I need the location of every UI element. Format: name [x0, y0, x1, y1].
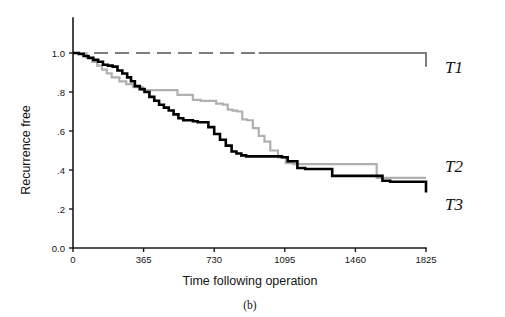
y-tick-label: .4: [57, 165, 65, 176]
y-axis-title: Recurrence free: [19, 105, 33, 195]
y-tick-label: .2: [57, 204, 65, 215]
x-tick-label: 1095: [274, 254, 295, 265]
kaplan-meier-chart: 0.0.2.4.6.81.0 0365730109514601825 T1T2T…: [0, 0, 505, 317]
series-label-t1: T1: [445, 58, 463, 77]
x-tick-label: 1460: [345, 254, 366, 265]
x-tick-label: 365: [136, 254, 152, 265]
figure-container: 0.0.2.4.6.81.0 0365730109514601825 T1T2T…: [0, 0, 505, 317]
y-axis-ticks: 0.0.2.4.6.81.0: [52, 48, 73, 254]
curve-t3: [73, 53, 426, 192]
x-tick-label: 730: [206, 254, 222, 265]
y-tick-label: 1.0: [52, 48, 65, 59]
curve-t2: [73, 53, 426, 178]
curve-t1: [259, 53, 426, 67]
series-legend-labels: T1T2T3: [445, 58, 463, 215]
y-tick-label: .8: [57, 87, 65, 98]
y-tick-label: .6: [57, 126, 65, 137]
x-axis-title: Time following operation: [182, 274, 317, 288]
x-axis-ticks: 0365730109514601825: [70, 248, 436, 265]
x-tick-label: 0: [70, 254, 75, 265]
figure-caption: (b): [243, 299, 257, 312]
series-label-t2: T2: [445, 157, 463, 176]
series-label-t3: T3: [445, 195, 463, 214]
series-curves: [73, 53, 426, 192]
x-tick-label: 1825: [415, 254, 436, 265]
y-tick-label: 0.0: [52, 243, 65, 254]
